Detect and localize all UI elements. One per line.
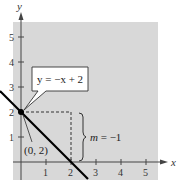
- y-axis-arrow-icon: [19, 12, 24, 20]
- y-axis-label: y: [16, 0, 22, 12]
- point-0-2: [18, 109, 24, 115]
- y-tick-label: 1: [9, 132, 14, 143]
- y-tick-label: 2: [9, 107, 14, 118]
- chart: y x 1 2 3 4 5 1 2 3 4 5 m = −1 (0, 2) y: [0, 0, 182, 190]
- x-tick-label: 3: [93, 167, 98, 178]
- x-tick-label: 1: [43, 167, 48, 178]
- x-axis-label: x: [170, 156, 176, 168]
- y-tick-label: 3: [9, 82, 14, 93]
- x-tick-label: 2: [68, 167, 73, 178]
- x-axis-arrow-icon: [160, 160, 168, 165]
- point-label: (0, 2): [24, 144, 48, 157]
- x-tick-label: 5: [143, 167, 148, 178]
- x-tick-label: 4: [118, 167, 123, 178]
- equation-label: y = −x + 2: [37, 73, 83, 85]
- slope-label: m = −1: [90, 131, 121, 143]
- y-tick-label: 5: [9, 32, 14, 43]
- y-tick-label: 4: [9, 57, 14, 68]
